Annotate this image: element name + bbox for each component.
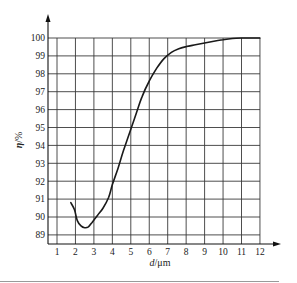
x-tick-label: 3 (92, 247, 97, 257)
x-axis-arrow-icon (273, 242, 281, 247)
y-tick-label: 91 (36, 194, 46, 204)
x-tick-label: 6 (147, 247, 152, 257)
x-tick-label: 12 (255, 247, 265, 257)
y-tick-label: 94 (36, 141, 46, 151)
y-tick-labels: 8990919293949596979899100 (31, 33, 46, 240)
axes (46, 14, 282, 247)
x-tick-labels: 123456789101112 (55, 247, 265, 257)
x-tick-label: 4 (110, 247, 115, 257)
y-tick-label: 90 (36, 212, 46, 222)
x-axis-label: d/μm (150, 257, 171, 268)
x-tick-label: 11 (237, 247, 246, 257)
x-tick-label: 8 (184, 247, 189, 257)
y-tick-label: 96 (36, 105, 46, 115)
y-axis-arrow-icon (46, 14, 51, 22)
y-tick-label: 98 (36, 69, 46, 79)
y-tick-label: 92 (36, 177, 46, 187)
bottom-divider (0, 281, 279, 282)
efficiency-chart: 123456789101112 899091929394959697989910… (0, 0, 297, 283)
y-tick-label: 99 (36, 51, 46, 61)
y-tick-label: 89 (36, 230, 46, 240)
x-tick-label: 1 (55, 247, 60, 257)
x-tick-label: 5 (128, 247, 133, 257)
y-tick-label: 100 (31, 33, 46, 43)
y-tick-label: 97 (36, 87, 46, 97)
x-tick-label: 10 (218, 247, 228, 257)
x-tick-label: 2 (73, 247, 78, 257)
x-tick-label: 7 (165, 247, 170, 257)
y-tick-label: 95 (36, 123, 46, 133)
x-tick-label: 9 (202, 247, 207, 257)
y-tick-label: 93 (36, 159, 46, 169)
grid-lines (48, 38, 260, 244)
y-axis-label: η/% (13, 132, 24, 149)
